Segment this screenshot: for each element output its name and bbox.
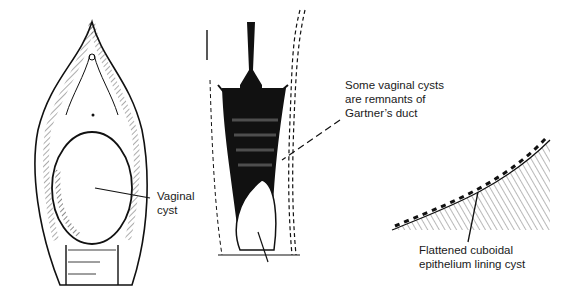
label-flattened-epithelium: Flattened cuboidal epithelium lining cys… xyxy=(419,243,525,271)
histology-figure xyxy=(392,136,550,242)
label-vaginal-cyst: Vaginal cyst xyxy=(157,189,195,217)
external-view-figure xyxy=(35,22,150,285)
coronal-section-figure xyxy=(207,10,340,262)
label-gartner-duct: Some vaginal cysts are remnants of Gartn… xyxy=(345,78,444,120)
vaginal-cyst-shape xyxy=(52,132,132,244)
gartner-duct-pointer xyxy=(282,120,340,160)
